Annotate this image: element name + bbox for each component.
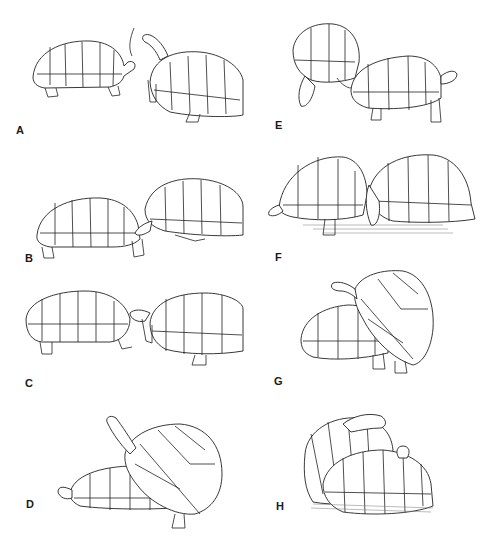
tortoise-pair-illustration-a <box>0 0 243 135</box>
tortoise-pair-illustration-c <box>0 269 243 394</box>
panel-c: C <box>0 269 243 394</box>
tortoise-pair-illustration-d <box>0 394 243 538</box>
panel-label-h: H <box>276 500 284 512</box>
panel-label-g: G <box>274 375 283 387</box>
panel-label-d: D <box>26 498 34 510</box>
panel-label-e: E <box>275 119 282 131</box>
panel-e: E <box>243 0 486 135</box>
panel-label-b: B <box>25 252 33 264</box>
panel-b: B <box>0 135 243 269</box>
panel-d: D <box>0 394 243 538</box>
panel-g: G <box>243 269 486 394</box>
panel-label-c: C <box>25 377 33 389</box>
tortoise-pair-illustration-b <box>0 135 243 269</box>
tortoise-pair-illustration-f <box>243 135 486 269</box>
panel-a: A <box>0 0 243 135</box>
tortoise-pair-illustration-h <box>243 394 486 538</box>
panel-label-f: F <box>275 251 282 263</box>
panel-h: H <box>243 394 486 538</box>
tortoise-pair-illustration-e <box>243 0 486 135</box>
panel-f: F <box>243 135 486 269</box>
